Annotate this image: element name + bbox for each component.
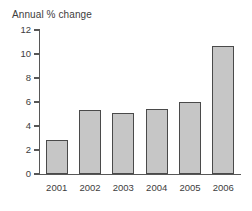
y-axis-tick-label: 8 xyxy=(1,73,31,83)
bar xyxy=(79,110,101,174)
bar xyxy=(112,113,134,174)
x-axis-tick-label: 2004 xyxy=(140,182,173,193)
y-axis-tick-label: 6 xyxy=(1,97,31,107)
x-axis-tick-label: 2001 xyxy=(40,182,73,193)
y-axis-tick-label: 0 xyxy=(1,169,31,179)
y-axis-tick-label: 12 xyxy=(1,25,31,35)
x-axis-labels: 200120022003200420052006 xyxy=(0,182,252,198)
x-axis-tick-label: 2006 xyxy=(207,182,240,193)
bar xyxy=(146,109,168,174)
bar xyxy=(179,102,201,174)
x-axis-line xyxy=(39,174,241,175)
y-axis-labels: 024681012 xyxy=(0,0,31,211)
plot-area xyxy=(40,30,240,174)
bar-chart: Annual % change 024681012 20012002200320… xyxy=(0,0,252,211)
x-axis-tick-label: 2002 xyxy=(73,182,106,193)
bar xyxy=(46,140,68,174)
x-axis-tick-label: 2005 xyxy=(173,182,206,193)
y-axis-tick-label: 4 xyxy=(1,121,31,131)
y-axis-tick-label: 2 xyxy=(1,145,31,155)
y-axis-tick-label: 10 xyxy=(1,49,31,59)
x-axis-tick-label: 2003 xyxy=(107,182,140,193)
bar xyxy=(212,46,234,174)
